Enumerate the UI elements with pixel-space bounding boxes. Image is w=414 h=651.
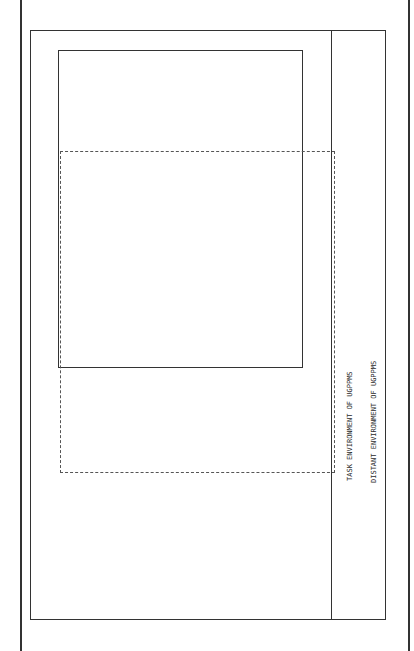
ugppms-system-boundary <box>60 151 335 473</box>
rotated-page: TASK ENVIRONMENT OF UGPPMS DISTANT ENVIR… <box>0 0 414 651</box>
environment-task-label: TASK ENVIRONMENT OF UGPPMS <box>346 371 355 481</box>
page-rule-bottom <box>408 0 410 651</box>
environment-distant-label: DISTANT ENVIRONMENT OF UGPPMS <box>370 361 379 483</box>
page-rule-top <box>20 0 22 651</box>
